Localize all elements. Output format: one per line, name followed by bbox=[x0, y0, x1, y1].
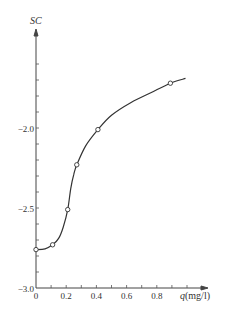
x-axis-unit: (mg/l) bbox=[185, 290, 210, 302]
data-point bbox=[96, 127, 100, 131]
data-curve bbox=[36, 78, 186, 249]
ticks bbox=[36, 64, 187, 288]
x-tick-label: 0 bbox=[34, 291, 39, 301]
y-tick-label: −2.5 bbox=[18, 204, 35, 214]
y-tick-label: −2.0 bbox=[18, 124, 35, 134]
data-point bbox=[66, 207, 70, 211]
y-axis-arrow-icon bbox=[34, 29, 38, 36]
x-axis-label: q(mg/l) bbox=[180, 290, 210, 302]
x-tick-label: 0.8 bbox=[151, 291, 163, 301]
x-tick-label: 0.6 bbox=[121, 291, 133, 301]
data-markers bbox=[34, 81, 173, 252]
x-tick-label: 0.4 bbox=[91, 291, 103, 301]
y-axis-label: SC bbox=[30, 15, 42, 26]
x-tick-label: 0.2 bbox=[61, 291, 72, 301]
data-point bbox=[168, 81, 172, 85]
data-point bbox=[34, 247, 38, 251]
chart: 00.20.40.60.8−3.0−2.5−2.0 SC q(mg/l) bbox=[0, 0, 231, 319]
axes bbox=[34, 29, 208, 290]
tick-labels: 00.20.40.60.8−3.0−2.5−2.0 bbox=[18, 124, 163, 302]
y-tick-label: −3.0 bbox=[18, 284, 35, 294]
data-point bbox=[75, 163, 79, 167]
data-point bbox=[50, 243, 54, 247]
